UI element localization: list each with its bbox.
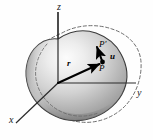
- point-label-p-prime: P′: [99, 40, 106, 49]
- axis-label-y: y: [137, 88, 141, 98]
- vector-label-u: u: [110, 52, 115, 61]
- vector-label-r: r: [67, 59, 71, 68]
- figure-container: z y x P′ P u r: [0, 0, 153, 140]
- point-label-p: P: [99, 64, 105, 73]
- undeformed-body: [26, 31, 127, 121]
- axis-label-x: x: [9, 115, 13, 125]
- axis-label-z: z: [57, 2, 61, 12]
- body-diagram-svg: [0, 0, 153, 140]
